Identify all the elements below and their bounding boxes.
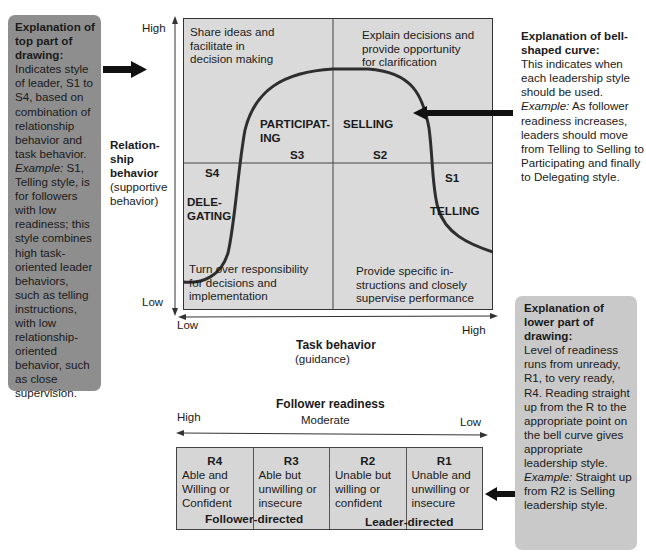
readiness-desc-line: Able and — [182, 468, 253, 482]
quadrant-bottom-right-text: Provide specific in- structions and clos… — [356, 264, 474, 305]
readiness-desc-line: insecure — [259, 496, 330, 510]
x-axis-title: Task behavior — [296, 338, 376, 352]
quadrant-text-line: for clarification — [362, 55, 474, 69]
quadrant-bottom-left-text: Turn over responsibility for decisions a… — [189, 262, 308, 303]
style-name-line: GATING — [187, 209, 231, 223]
readiness-id: R1 — [407, 454, 483, 468]
example-text: S1, Telling style, is for followers with… — [15, 161, 92, 400]
example-label: Example: — [524, 470, 572, 483]
style-delegating-label: DELE- GATING — [187, 195, 231, 223]
callout-heading: Explanation of lower part of drawing: — [524, 301, 633, 343]
callout-bell-curve-explanation: Explanation of bell-shaped curve: This i… — [521, 29, 646, 184]
y-axis-high-label: High — [142, 22, 166, 34]
quadrant-text-line: Provide specific in- — [356, 264, 474, 278]
readiness-desc-line: confident — [335, 496, 406, 510]
callout-top-part-explanation: Explanation of top part of drawing: Indi… — [8, 15, 101, 391]
quadrant-text-line: for decisions and — [189, 276, 308, 290]
y-axis-title-line: ship — [110, 152, 180, 166]
readiness-desc-line: Unable but — [335, 468, 406, 482]
readiness-desc-line: Able but — [259, 468, 330, 482]
readiness-id: R3 — [254, 454, 330, 468]
callout-heading: Explanation of bell-shaped curve: — [521, 29, 646, 57]
quadrant-text-line: Turn over responsibility — [189, 262, 308, 276]
x-axis-arrow-icon — [178, 312, 498, 322]
readiness-desc-line: willing or — [335, 482, 406, 496]
example-label: Example: — [15, 161, 63, 174]
x-axis-subtitle: (guidance) — [295, 352, 350, 365]
style-telling-label: TELLING — [430, 204, 480, 218]
x-axis-low-label: Low — [177, 319, 198, 331]
quadrant-text-line: provide opportunity — [362, 42, 474, 56]
y-axis-title-line: behavior — [110, 166, 180, 180]
example-label: Example: — [521, 99, 569, 112]
readiness-desc-line: Willing or — [182, 482, 253, 496]
style-name-line: DELE- — [187, 195, 231, 209]
readiness-desc-line: Confident — [182, 496, 253, 510]
y-axis-title-line: Relation- — [110, 138, 180, 152]
y-axis-title: Relation- ship behavior (supportive beha… — [110, 138, 180, 208]
style-code-s1: S1 — [445, 171, 459, 185]
readiness-desc-line: insecure — [412, 496, 483, 510]
y-axis-subtitle-line: (supportive — [110, 180, 180, 194]
style-selling-label: SELLING — [343, 117, 393, 131]
arrow-left-icon — [485, 487, 517, 501]
style-name-line: ING — [260, 131, 330, 145]
readiness-moderate-label: Moderate — [301, 414, 350, 426]
readiness-desc-line: unwilling or — [259, 482, 330, 496]
callout-text: Indicates style of leader, S1 to S4, bas… — [15, 62, 93, 160]
x-axis-high-label: High — [462, 324, 486, 336]
arrow-right-icon — [103, 60, 148, 80]
quadrant-top-right-text: Explain decisions and provide opportunit… — [362, 28, 474, 69]
style-code-s4: S4 — [205, 166, 219, 180]
callout-text: Level of readiness runs from unready, R1… — [524, 343, 630, 469]
arrow-left-icon — [413, 105, 513, 121]
quadrant-text-line: supervise performance — [356, 291, 474, 305]
callout-lower-part-explanation: Explanation of lower part of drawing: Le… — [515, 296, 637, 550]
readiness-high-label: High — [177, 411, 201, 423]
leader-directed-label: Leader-directed — [365, 515, 454, 529]
style-code-s2: S2 — [373, 148, 387, 162]
quadrant-text-line: Explain decisions and — [362, 28, 474, 42]
readiness-low-label: Low — [460, 416, 481, 428]
readiness-title: Follower readiness — [276, 397, 385, 411]
readiness-desc-line: Unable and — [412, 468, 483, 482]
y-axis-subtitle-line: behavior) — [110, 194, 180, 208]
style-name-line: PARTICIPAT- — [260, 117, 330, 131]
style-code-s3: S3 — [290, 148, 304, 162]
quadrant-text-line: implementation — [189, 289, 308, 303]
quadrant-text-line: decision making — [190, 52, 274, 66]
callout-heading: Explanation of top part of drawing: — [15, 20, 96, 62]
quadrant-text-line: facilitate in — [190, 39, 274, 53]
style-participating-label: PARTICIPAT- ING — [260, 117, 330, 145]
callout-text: This indicates when each leadership styl… — [521, 57, 630, 98]
quadrant-top-left-text: Share ideas and facilitate in decision m… — [190, 25, 274, 66]
readiness-desc-line: unwilling or — [412, 482, 483, 496]
y-axis-low-label: Low — [142, 296, 163, 308]
readiness-axis-arrow-icon — [176, 429, 488, 439]
follower-directed-label: Follower-directed — [205, 512, 303, 526]
quadrant-text-line: structions and closely — [356, 278, 474, 292]
quadrant-text-line: Share ideas and — [190, 25, 274, 39]
readiness-id: R4 — [177, 454, 253, 468]
readiness-id: R2 — [330, 454, 406, 468]
